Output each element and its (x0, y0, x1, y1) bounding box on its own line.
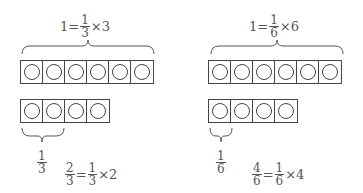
partial-row (208, 99, 298, 123)
fraction: 46 (252, 162, 262, 187)
denominator: 6 (276, 175, 284, 187)
cell (319, 61, 341, 83)
circle-icon (322, 64, 338, 80)
circle-icon (256, 103, 272, 119)
cell (231, 61, 253, 83)
circle-icon (278, 103, 294, 119)
full-row (208, 60, 342, 84)
panel-thirds: 1= 13 ×3 13 23 = 13 ×2 (0, 0, 181, 193)
circle-icon (256, 64, 272, 80)
circle-icon (24, 64, 40, 80)
circle-icon (134, 64, 150, 80)
eq-lhs: 1= (249, 19, 268, 34)
cell (21, 61, 43, 83)
denominator: 3 (38, 163, 46, 175)
unit-brace (181, 126, 362, 146)
circle-icon (90, 64, 106, 80)
denominator: 3 (89, 175, 97, 187)
top-equation: 1= 13 ×3 (60, 14, 110, 39)
cell (87, 100, 109, 122)
bottom-equation: 23 = 13 ×2 (64, 162, 117, 187)
bottom-equation: 46 = 16 ×4 (251, 162, 304, 187)
denominator: 3 (66, 175, 74, 187)
circle-icon (90, 103, 106, 119)
cell (43, 100, 65, 122)
eq-rhs: ×4 (285, 167, 304, 182)
cell (109, 61, 131, 83)
unit-brace (0, 126, 181, 146)
cell (275, 61, 297, 83)
denominator: 6 (253, 175, 261, 187)
cell (297, 61, 319, 83)
circle-icon (278, 64, 294, 80)
cell (21, 100, 43, 122)
full-row (20, 60, 154, 84)
circle-icon (46, 103, 62, 119)
cell (253, 100, 275, 122)
eq-rhs: ×2 (98, 167, 117, 182)
fraction: 13 (88, 162, 98, 187)
unit-label: 16 (215, 150, 227, 175)
cell (253, 61, 275, 83)
cell (209, 61, 231, 83)
fraction: 13 (80, 14, 90, 39)
top-brace (181, 38, 362, 58)
equals: = (76, 167, 87, 182)
cell (65, 100, 87, 122)
fraction: 16 (275, 162, 285, 187)
top-equation: 1= 16 ×6 (249, 14, 299, 39)
circle-icon (112, 64, 128, 80)
cell (275, 100, 297, 122)
cell (43, 61, 65, 83)
fraction: 16 (216, 150, 226, 175)
eq-rhs: ×3 (91, 19, 110, 34)
fraction: 13 (37, 150, 47, 175)
circle-icon (212, 64, 228, 80)
circle-icon (234, 64, 250, 80)
eq-rhs: ×6 (280, 19, 299, 34)
circle-icon (68, 103, 84, 119)
cell (209, 100, 231, 122)
eq-lhs: 1= (60, 19, 79, 34)
fraction: 16 (269, 14, 279, 39)
circle-icon (234, 103, 250, 119)
cell (65, 61, 87, 83)
top-brace (0, 38, 181, 58)
fraction: 23 (65, 162, 75, 187)
circle-icon (212, 103, 228, 119)
circle-icon (46, 64, 62, 80)
denominator: 6 (217, 163, 225, 175)
circle-icon (24, 103, 40, 119)
circle-icon (68, 64, 84, 80)
equals: = (263, 167, 274, 182)
cell (87, 61, 109, 83)
panel-sixths: 1= 16 ×6 16 46 = 16 ×4 (181, 0, 362, 193)
partial-row (20, 99, 110, 123)
cell (231, 100, 253, 122)
unit-label: 13 (36, 150, 48, 175)
cell (131, 61, 153, 83)
circle-icon (300, 64, 316, 80)
